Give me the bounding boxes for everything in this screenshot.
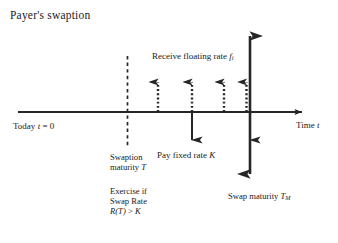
pay-fixed-var: K (209, 150, 215, 160)
receive-floating-rate-label: Receive floating rate fi (152, 51, 234, 62)
pay-fixed-rate-label: Pay fixed rate K (157, 150, 215, 161)
swap-maturity-label: Swap maturity TM (228, 191, 290, 202)
exercise-line2: Swap Rate (110, 196, 147, 206)
time-axis-label-var: t (317, 120, 320, 130)
exercise-line1: Exercise if (110, 186, 147, 196)
swap-maturity-sub: M (285, 194, 290, 201)
today-label-value: = 0 (42, 121, 54, 131)
exercise-line3-op: > (128, 206, 133, 216)
today-label-var: t (38, 121, 41, 131)
receive-floating-prefix: Receive floating rate (152, 51, 227, 61)
exercise-line3-rhs: K (135, 206, 141, 216)
receive-floating-sub: i (232, 54, 234, 61)
swaption-timeline-figure: Payer's swaption (0, 0, 338, 243)
swaption-maturity-line2-var: T (141, 162, 146, 172)
time-axis-label-prefix: Time (296, 120, 315, 130)
swap-maturity-prefix: Swap maturity (228, 191, 278, 201)
swaption-maturity-line2: maturity T (110, 162, 146, 172)
pay-fixed-prefix: Pay fixed rate (157, 150, 207, 160)
swaption-maturity-line1: Swaption (110, 152, 146, 162)
exercise-line3: R(T) > K (110, 206, 147, 216)
today-label-prefix: Today (13, 121, 35, 131)
swaption-maturity-line2-prefix: maturity (110, 162, 139, 172)
time-axis-label: Time t (296, 120, 319, 131)
today-label: Today t = 0 (13, 121, 54, 132)
exercise-line3-arg: (T) (115, 206, 126, 216)
exercise-condition-label: Exercise if Swap Rate R(T) > K (110, 186, 147, 216)
swaption-maturity-label: Swaption maturity T (110, 152, 146, 172)
